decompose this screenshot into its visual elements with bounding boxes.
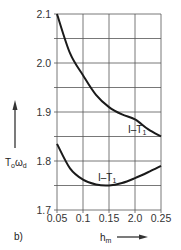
x-tick-label: 0.1 <box>76 212 91 224</box>
grid <box>54 14 161 213</box>
y-tick-labels: 1.71.81.92.02.1 <box>36 8 51 216</box>
y-tick-label: 2.0 <box>36 57 51 69</box>
chart: 1.71.81.92.02.1 0.050.10.152.00.25 I–T1 … <box>0 0 181 250</box>
x-tick-label: 0.15 <box>99 212 120 224</box>
svg-text:Toωd: Toωd <box>5 157 27 169</box>
panel-label: b) <box>14 231 23 242</box>
arrow-head-icon <box>13 100 18 110</box>
y-tick-label: 2.1 <box>36 8 51 20</box>
x-axis-label: hm <box>100 232 148 244</box>
y-axis-label: Toωd <box>5 100 27 169</box>
x-tick-label: 0.25 <box>151 212 172 224</box>
arrow-head-icon <box>139 235 148 240</box>
svg-text:hm: hm <box>100 232 112 244</box>
x-tick-label: 0.05 <box>47 212 68 224</box>
x-tick-label: 2.0 <box>128 212 143 224</box>
x-tick-labels: 0.050.10.152.00.25 <box>47 212 172 224</box>
y-tick-label: 1.9 <box>36 106 51 118</box>
y-tick-label: 1.8 <box>36 155 51 167</box>
lower-curve-label: I–T1 <box>98 172 116 184</box>
